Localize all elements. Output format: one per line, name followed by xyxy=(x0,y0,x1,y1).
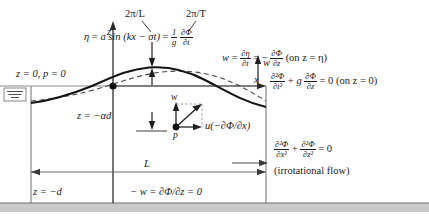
one-over-g-numerator: 1 xyxy=(171,28,177,37)
d2phi-dx2-denominator: ∂x² xyxy=(274,149,289,159)
dphi-dt-denominator: ∂t xyxy=(180,37,193,47)
eta-expression: a sin (kx − σt) xyxy=(100,31,160,42)
point-p-label: p xyxy=(173,131,178,141)
eta-equals-1: = xyxy=(92,31,98,42)
deta-dt-fraction: ∂η ∂t xyxy=(240,49,250,67)
deta-dt-numerator: ∂η xyxy=(240,49,250,58)
laplace-plus: + xyxy=(292,143,298,154)
eta-equals-2: = xyxy=(163,31,169,42)
dfsbc-dphi-dz-numerator: ∂Φ xyxy=(304,72,317,81)
sigma-callout-label: 2π/T xyxy=(186,8,206,19)
dfsbc-plus: + xyxy=(288,75,294,86)
irrotational-flow-note: (irrotational flow) xyxy=(274,165,350,176)
kinematic-free-surface-condition: w = ∂η ∂t = − ∂Φ ∂z (on z = η) xyxy=(222,50,327,68)
eta-pointer-arrowhead xyxy=(149,58,155,67)
d2phi-dx2-numerator: ∂²Φ xyxy=(274,140,289,149)
velocity-u-label: u(−∂Φ/∂x) xyxy=(205,120,250,131)
bottom-boundary-condition: − w = ∂Φ/∂z = 0 xyxy=(130,186,202,197)
dphi-dt-numerator: ∂Φ xyxy=(180,28,193,37)
d2phi-dx2-fraction: ∂²Φ ∂x² xyxy=(274,140,289,158)
bottom-level-label: z = −d xyxy=(33,186,62,197)
d2phi-dz2-numerator: ∂²Φ xyxy=(300,140,315,149)
dphi-dz-fraction: ∂Φ ∂z xyxy=(270,49,283,67)
d2phi-dt2-numerator: ∂²Φ xyxy=(270,72,285,81)
kfsbc-condition: (on z = η) xyxy=(286,52,327,63)
dfsbc-condition: (on z = 0) xyxy=(336,75,377,86)
one-over-g-fraction: 1 g xyxy=(171,28,177,46)
dfsbc-equals: = 0 xyxy=(320,75,334,86)
wave-theory-figure: z x 2π/L 2π/T η = a sin (kx − σt) = 1 g … xyxy=(0,0,429,224)
surface-elevation-equation: η = a sin (kx − σt) = 1 g ∂Φ ∂t xyxy=(84,29,193,47)
velocity-vector-diagram xyxy=(173,102,202,130)
d2phi-dt2-fraction: ∂²Φ ∂t² xyxy=(270,72,285,90)
dfsbc-dphi-dz-denominator: ∂z xyxy=(304,81,317,91)
x-axis-label: x xyxy=(254,74,259,85)
alpha-d-down-arrowhead xyxy=(149,121,155,130)
still-water-level-label: z = 0, p = 0 xyxy=(16,68,66,79)
wave-profile-solid xyxy=(31,67,266,107)
figure-geometry xyxy=(0,0,429,224)
alpha-d-up-arrowhead xyxy=(149,68,155,77)
kfsbc-w: w xyxy=(222,52,229,63)
laplace-equation: ∂²Φ ∂x² + ∂²Φ ∂z² = 0 xyxy=(274,141,332,159)
dfsbc-dphi-dz-fraction: ∂Φ ∂z xyxy=(304,72,317,90)
d2phi-dz2-fraction: ∂²Φ ∂z² xyxy=(300,140,315,158)
dphi-dz-numerator: ∂Φ xyxy=(270,49,283,58)
dynamic-free-surface-condition: ∂²Φ ∂t² + g ∂Φ ∂z = 0 (on z = 0) xyxy=(270,73,377,91)
wavelength-arrow-right xyxy=(257,169,266,175)
wavelength-label: L xyxy=(144,158,150,169)
velocity-w-label: w xyxy=(171,93,177,103)
k-callout-label: 2π/L xyxy=(125,8,145,19)
w-arrow-label: w xyxy=(263,57,270,68)
wavelength-arrow-left xyxy=(31,169,40,175)
one-over-g-denominator: g xyxy=(171,37,177,47)
dfsbc-g: g xyxy=(296,75,301,86)
eta-symbol: η xyxy=(84,31,89,42)
dphi-dt-fraction: ∂Φ ∂t xyxy=(180,28,193,46)
kfsbc-equals-1: = xyxy=(232,52,238,63)
u-component-arrowhead xyxy=(193,124,202,130)
dphi-dz-denominator: ∂z xyxy=(270,58,283,68)
laplace-pointer-arrowhead xyxy=(259,160,268,166)
seabed-band xyxy=(0,203,429,212)
d2phi-dz2-denominator: ∂z² xyxy=(300,149,315,159)
deta-dt-denominator: ∂t xyxy=(240,58,250,68)
d2phi-dt2-denominator: ∂t² xyxy=(270,81,285,91)
w-component-arrowhead xyxy=(173,102,179,111)
laplace-equals: = 0 xyxy=(318,143,332,154)
decay-depth-label: z = −αd xyxy=(77,110,111,121)
